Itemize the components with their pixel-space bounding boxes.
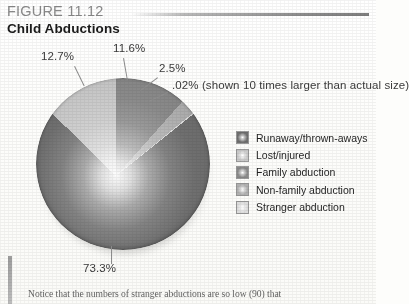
callout-stranger-value: .02%	[172, 79, 199, 91]
legend-label-lost-injured: Lost/injured	[256, 149, 310, 161]
legend: Runaway/thrown-aways Lost/injured Family…	[236, 129, 367, 216]
callout-lost-injured: 12.7%	[41, 50, 74, 62]
legend-label-stranger: Stranger abduction	[256, 201, 345, 213]
legend-swatch-nonfamily	[236, 183, 249, 196]
legend-swatch-stranger	[236, 201, 249, 214]
callout-nonfamily: 2.5%	[159, 62, 186, 74]
figure-caption: Notice that the numbers of stranger abdu…	[28, 288, 372, 299]
caption-rule	[8, 256, 12, 304]
figure-number: FIGURE 11.12	[7, 3, 120, 19]
legend-label-family: Family abduction	[256, 166, 335, 178]
legend-swatch-runaway	[236, 131, 249, 144]
callout-stranger-note: (shown 10 times larger than actual size)	[202, 79, 409, 91]
header-rule	[131, 13, 369, 16]
figure-title: Child Abductions	[7, 20, 120, 37]
pie-chart	[33, 76, 217, 258]
legend-swatch-family	[236, 166, 249, 179]
legend-item-lost-injured: Lost/injured	[236, 146, 367, 163]
callout-runaway: 73.3%	[83, 262, 116, 274]
pie-slices	[36, 78, 210, 250]
legend-item-runaway: Runaway/thrown-aways	[236, 129, 367, 146]
figure-header: FIGURE 11.12 Child Abductions	[7, 3, 120, 37]
callout-stranger: .02% (shown 10 times larger than actual …	[172, 79, 409, 91]
legend-label-runaway: Runaway/thrown-aways	[256, 132, 367, 144]
legend-item-family: Family abduction	[236, 164, 367, 181]
legend-item-stranger: Stranger abduction	[236, 199, 367, 216]
legend-label-nonfamily: Non-family abduction	[256, 184, 355, 196]
legend-swatch-lost-injured	[236, 149, 249, 162]
legend-item-nonfamily: Non-family abduction	[236, 181, 367, 198]
callout-family: 11.6%	[113, 42, 145, 54]
